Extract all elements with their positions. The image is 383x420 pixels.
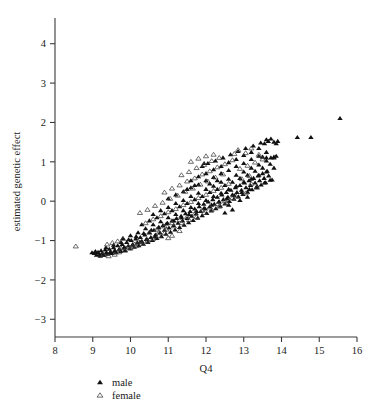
data-point-male — [143, 226, 148, 230]
data-point-male — [188, 205, 193, 209]
data-point-male — [266, 173, 271, 177]
data-point-female — [194, 166, 199, 170]
data-point-male — [135, 230, 140, 234]
legend-label-male: male — [112, 377, 133, 388]
data-point-male — [249, 157, 254, 161]
data-point-female — [230, 158, 235, 162]
data-point-female — [177, 183, 182, 187]
data-point-male — [226, 177, 231, 181]
data-point-male — [295, 135, 300, 139]
data-point-male — [234, 184, 239, 188]
data-point-female — [215, 165, 220, 169]
x-tick-label: 11 — [163, 345, 173, 356]
data-point-male — [243, 146, 248, 150]
x-tick-label: 10 — [125, 345, 136, 356]
data-point-female — [217, 155, 222, 159]
data-point-male — [201, 202, 206, 206]
data-point-female — [145, 207, 150, 211]
data-point-female — [186, 170, 191, 174]
data-point-male — [234, 190, 239, 194]
series-male — [89, 116, 342, 258]
data-point-male — [243, 185, 248, 189]
y-axis-title: estimated genetic effect — [11, 132, 22, 232]
data-point-male — [196, 201, 201, 205]
data-point-female — [211, 152, 216, 156]
x-tick-label: 16 — [352, 345, 363, 356]
data-point-male — [173, 212, 178, 216]
data-point-male — [211, 194, 216, 198]
data-point-female — [110, 240, 115, 244]
data-point-male — [275, 139, 280, 143]
x-tick-label: 14 — [276, 345, 287, 356]
data-point-male — [150, 222, 155, 226]
y-tick-label: 3 — [41, 78, 46, 89]
data-point-male — [173, 201, 178, 205]
data-point-female — [177, 229, 182, 233]
data-point-female — [104, 242, 109, 246]
y-tick-label: −1 — [35, 235, 46, 246]
data-point-male — [258, 140, 263, 144]
data-point-female — [73, 244, 78, 248]
data-point-male — [181, 198, 186, 202]
data-point-female — [169, 186, 174, 190]
data-point-male — [150, 212, 155, 216]
data-point-female — [137, 211, 142, 215]
data-point-male — [218, 191, 223, 195]
data-point-male — [166, 215, 171, 219]
y-tick-label: 1 — [41, 157, 46, 168]
data-point-male — [264, 150, 269, 154]
data-point-male — [271, 166, 276, 170]
series-female — [73, 146, 265, 258]
data-point-male — [203, 198, 208, 202]
data-point-male — [222, 210, 227, 214]
y-tick-label: 4 — [41, 38, 47, 49]
data-point-male — [234, 164, 239, 168]
data-point-male — [215, 195, 220, 199]
data-point-male — [188, 194, 193, 198]
x-tick-label: 8 — [52, 345, 57, 356]
data-point-female — [196, 156, 201, 160]
data-point-male — [249, 150, 254, 154]
data-point-male — [111, 243, 116, 247]
data-point-female — [169, 233, 174, 237]
data-point-male — [257, 178, 262, 182]
data-point-female — [188, 159, 193, 163]
data-point-male — [187, 209, 192, 213]
legend-label-female: female — [112, 390, 141, 401]
data-point-female — [160, 200, 165, 204]
data-point-male — [138, 235, 143, 239]
data-point-female — [200, 172, 205, 176]
y-tick-label: 2 — [41, 117, 46, 128]
data-point-male — [230, 207, 235, 211]
data-point-male — [203, 187, 208, 191]
data-point-male — [241, 161, 246, 165]
x-axis-title: Q4 — [200, 363, 214, 374]
data-point-male — [98, 248, 103, 252]
legend-marker-female — [97, 393, 103, 397]
y-tick-label: 0 — [41, 196, 46, 207]
y-tick-label: −3 — [35, 314, 46, 325]
data-point-male — [181, 208, 186, 212]
data-point-male — [234, 173, 239, 177]
y-tick-label: −2 — [35, 275, 46, 286]
data-point-female — [162, 190, 167, 194]
data-point-female — [203, 154, 208, 158]
data-point-male — [141, 231, 146, 235]
x-tick-label: 15 — [314, 345, 325, 356]
data-point-female — [152, 203, 157, 207]
legend-marker-male — [97, 380, 103, 385]
x-tick-label: 12 — [201, 345, 212, 356]
data-point-female — [115, 239, 120, 243]
data-point-male — [158, 208, 163, 212]
data-point-female — [209, 159, 214, 163]
data-point-male — [245, 195, 250, 199]
data-point-male — [261, 176, 266, 180]
data-point-male — [166, 205, 171, 209]
data-point-female — [243, 151, 248, 155]
data-point-female — [179, 173, 184, 177]
x-tick-label: 13 — [239, 345, 250, 356]
scatter-svg: −3−2−1012348910111213141516Q4estimated g… — [0, 0, 383, 420]
data-point-male — [308, 135, 313, 139]
data-point-male — [196, 191, 201, 195]
data-point-male — [133, 234, 138, 238]
